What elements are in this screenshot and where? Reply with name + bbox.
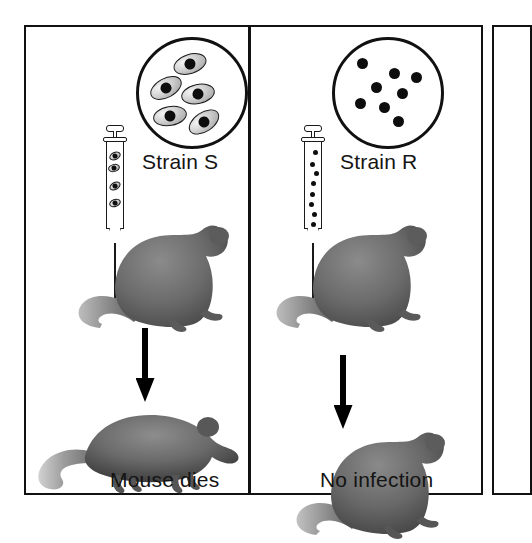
bacterium-encapsulated [184, 104, 223, 140]
column-strain-s: Strain S [24, 25, 248, 495]
syringe-bacterium-rough [310, 162, 315, 167]
bacterium-core [191, 87, 204, 100]
microscope-view-strain-s [136, 37, 248, 149]
bacterium-core [183, 57, 197, 71]
bacterium-core [159, 81, 174, 96]
bacterium-encapsulated [146, 71, 185, 105]
bacterium-core [112, 153, 119, 160]
syringe-bacterium-rough [310, 192, 315, 197]
bacterium-core [112, 200, 118, 206]
syringe-bacterium-encapsulated [107, 163, 121, 174]
syringe-bacterium-encapsulated [108, 150, 122, 162]
column-strain-r: Strain R [252, 25, 476, 495]
syringe-bacterium-rough [309, 202, 314, 207]
bacterium-rough [371, 82, 382, 93]
microscope-view-strain-r [332, 37, 444, 149]
arrow-shaft [340, 355, 346, 407]
bacterium-rough [393, 116, 404, 127]
bacterium-rough [397, 88, 408, 99]
syringe-bacterium-rough [311, 181, 316, 186]
syringe-bacterium-encapsulated [108, 180, 122, 193]
bacterium-rough [389, 68, 400, 79]
arrow-down-strain-s [132, 328, 158, 402]
bacterium-rough [357, 58, 368, 69]
bacterium-rough [411, 72, 422, 83]
bacterium-core [196, 114, 211, 129]
bacterium-core [112, 183, 119, 190]
arrow-down-strain-r [330, 355, 356, 429]
bacterium-core [164, 110, 177, 123]
mouse-injected-strain-r [270, 210, 440, 345]
bacterium-encapsulated [171, 49, 210, 79]
mouse-injected-strain-s [72, 210, 242, 345]
outcome-label-strain-r: No infection [320, 468, 433, 492]
bacterium-encapsulated [152, 103, 189, 129]
column-divider [248, 27, 251, 493]
bacterium-rough [355, 98, 366, 109]
syringe-bacterium-encapsulated [108, 197, 122, 209]
syringe-bacterium-rough [313, 150, 318, 155]
arrow-shaft [142, 328, 148, 380]
outcome-label-strain-s: Mouse dies [110, 468, 219, 492]
strain-label-r: Strain R [340, 150, 417, 174]
syringe-bacterium-rough [314, 171, 319, 176]
bacterium-encapsulated [179, 81, 216, 108]
bacterium-core [111, 165, 117, 171]
strain-label-s: Strain S [142, 150, 218, 174]
adjacent-panel-border [492, 25, 532, 495]
bacterium-rough [379, 102, 390, 113]
